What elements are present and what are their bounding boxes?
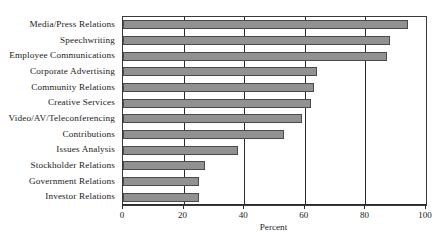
bar-chart-figure: Media/Press RelationsSpeechwritingEmploy… (0, 0, 432, 236)
bar-row (123, 48, 426, 64)
category-label: Stockholder Relations (0, 157, 119, 173)
bar (123, 20, 408, 29)
category-label: Government Relations (0, 173, 119, 189)
bar-row (123, 17, 426, 33)
bar-row (123, 64, 426, 80)
category-label: Creative Services (0, 94, 119, 110)
category-label: Investor Relations (0, 188, 119, 204)
x-tick-label: 40 (239, 210, 248, 220)
bar-row (123, 33, 426, 49)
x-tick-label: 80 (360, 210, 369, 220)
bar (123, 83, 314, 92)
category-label: Issues Analysis (0, 141, 119, 157)
bar (123, 67, 317, 76)
bar (123, 114, 302, 123)
bar (123, 52, 387, 61)
bar (123, 161, 205, 170)
plot-area (122, 16, 427, 206)
bar-row (123, 158, 426, 174)
bar (123, 36, 390, 45)
bar (123, 130, 284, 139)
category-label: Employee Communications (0, 47, 119, 63)
x-tick-label: 0 (120, 210, 125, 220)
bar-row (123, 127, 426, 143)
category-label: Contributions (0, 126, 119, 142)
x-tick-label: 20 (178, 210, 187, 220)
category-label: Media/Press Relations (0, 16, 119, 32)
chart-title (0, 0, 432, 2)
x-axis-title: Percent (122, 222, 425, 232)
bars-layer (123, 17, 426, 205)
category-label: Corporate Advertising (0, 63, 119, 79)
x-tick-label: 100 (418, 210, 432, 220)
category-label: Community Relations (0, 79, 119, 95)
bar-row (123, 95, 426, 111)
bar-row (123, 111, 426, 127)
category-axis: Media/Press RelationsSpeechwritingEmploy… (0, 16, 119, 204)
bar-row (123, 142, 426, 158)
category-label: Video/AV/Teleconferencing (0, 110, 119, 126)
x-tick-label: 60 (299, 210, 308, 220)
bar (123, 99, 311, 108)
bar (123, 177, 199, 186)
bar-row (123, 174, 426, 190)
bar-row (123, 189, 426, 205)
bar (123, 146, 238, 155)
bar-row (123, 80, 426, 96)
bar (123, 193, 199, 202)
category-label: Speechwriting (0, 32, 119, 48)
